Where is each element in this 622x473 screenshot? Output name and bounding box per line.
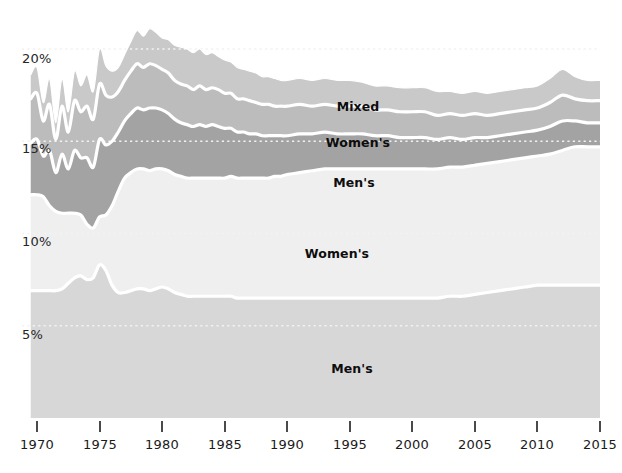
y-axis-label-10pct: 10% [22,234,52,249]
x-axis-tick-1970 [36,421,38,432]
x-axis-tick-1995 [349,421,351,432]
x-axis-label-2015: 2015 [572,437,622,452]
x-axis-label-1980: 1980 [134,437,190,452]
x-axis-label-1975: 1975 [72,437,128,452]
area-bands [31,29,607,418]
x-axis-label-2010: 2010 [509,437,565,452]
x-axis-tick-2010 [536,421,538,432]
stacked-area-chart: 20%15%10%5% 1970197519801985199019952000… [0,0,622,473]
series-label-3: Women's [305,246,369,261]
x-axis-label-1985: 1985 [197,437,253,452]
x-axis-tick-1975 [99,421,101,432]
x-axis-tick-1980 [161,421,163,432]
series-label-4: Men's [331,361,373,376]
x-axis-tick-1985 [224,421,226,432]
x-axis-label-2000: 2000 [384,437,440,452]
x-axis-label-1990: 1990 [259,437,315,452]
series-label-2: Men's [333,175,375,190]
x-axis-tick-2000 [411,421,413,432]
y-axis-label-5pct: 5% [22,327,43,342]
x-axis-tick-1990 [286,421,288,432]
series-label-1: Women's [326,135,390,150]
x-axis-label-1995: 1995 [322,437,378,452]
y-axis-label-20pct: 20% [22,51,52,66]
y-axis-label-15pct: 15% [22,141,52,156]
series-label-0: Mixed [337,99,380,114]
chart-plot-area [0,0,622,473]
x-axis-label-2005: 2005 [447,437,503,452]
x-axis-label-1970: 1970 [9,437,65,452]
x-axis-tick-2005 [474,421,476,432]
x-axis-tick-2015 [599,421,601,432]
